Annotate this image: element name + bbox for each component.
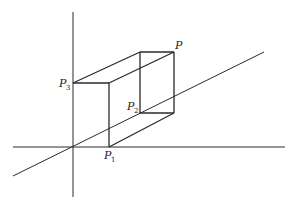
y-axis <box>13 52 264 176</box>
rectangular-box <box>73 52 174 147</box>
label-p1: P 1 <box>103 149 115 164</box>
svg-text:3: 3 <box>66 84 70 92</box>
svg-text:2: 2 <box>134 107 138 115</box>
label-p2: P 2 <box>126 100 138 115</box>
label-p3: P 3 <box>58 77 70 92</box>
label-p: P <box>174 39 183 52</box>
coordinate-diagram: P P 3 P 2 P 1 <box>0 0 294 206</box>
svg-text:1: 1 <box>111 156 115 164</box>
svg-text:P: P <box>174 39 183 52</box>
